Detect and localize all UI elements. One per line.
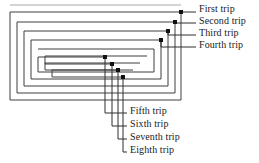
label-fourth-trip: Fourth trip xyxy=(199,40,243,50)
spiral-arm-4 xyxy=(31,40,161,79)
leader-line-third xyxy=(168,31,196,35)
spiral-arm-3 xyxy=(24,31,168,86)
leader-line-eighth xyxy=(123,77,127,152)
endpoint-dot-fourth xyxy=(159,38,163,42)
leader-line-sixth xyxy=(112,64,127,126)
endpoint-dot-eighth xyxy=(121,75,125,79)
spiral-arm-5 xyxy=(38,49,154,72)
leader-line-fourth xyxy=(161,40,196,47)
label-eighth-trip: Eighth trip xyxy=(130,145,174,155)
label-first-trip: First trip xyxy=(199,4,235,14)
spiral-trip-diagram: First trip Second trip Third trip Fourth… xyxy=(0,0,259,163)
leader-line-fifth xyxy=(105,57,127,113)
endpoint-dot-sixth xyxy=(110,62,114,66)
endpoint-dot-seventh xyxy=(116,68,120,72)
endpoint-dot-first xyxy=(179,10,183,14)
spiral-arm-8 xyxy=(52,70,133,77)
endpoint-dot-fifth xyxy=(103,55,107,59)
leader-line-second xyxy=(175,22,196,23)
label-fifth-trip: Fifth trip xyxy=(130,106,167,116)
endpoint-dot-third xyxy=(166,29,170,33)
label-second-trip: Second trip xyxy=(199,16,246,26)
label-seventh-trip: Seventh trip xyxy=(130,132,180,142)
endpoint-dot-second xyxy=(173,20,177,24)
label-third-trip: Third trip xyxy=(199,28,239,38)
label-sixth-trip: Sixth trip xyxy=(130,119,169,129)
